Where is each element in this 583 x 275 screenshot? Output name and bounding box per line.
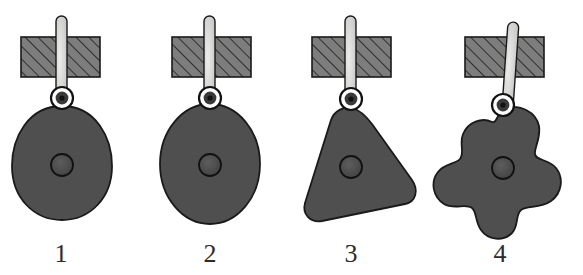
panel-4: 4 [433,22,560,268]
pivot-joint [199,87,221,109]
pendulum-figure: 1 2 [0,0,583,275]
center-of-mass-dot [51,154,73,176]
center-of-mass-dot [340,156,362,178]
panel-3-label: 3 [345,239,358,268]
panel-1-label: 1 [55,239,68,268]
pivot-joint [51,87,73,109]
panel-3: 3 [304,16,415,268]
panel-2-label: 2 [204,239,217,268]
panel-4-label: 4 [494,239,507,268]
figure-canvas: 1 2 [0,0,583,275]
pivot-joint [492,94,514,116]
pivot-joint [340,88,362,110]
panel-1: 1 [12,16,112,268]
center-of-mass-dot [492,157,514,179]
panel-2: 2 [160,16,260,268]
center-of-mass-dot [199,154,221,176]
